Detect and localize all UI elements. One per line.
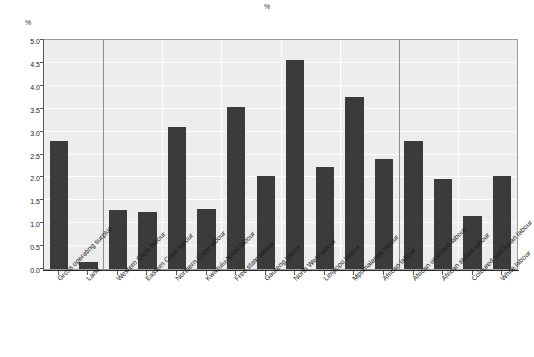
gridline-vertical [281, 40, 282, 269]
y-axis-tick-label: 4.0 [30, 83, 40, 90]
group-separator [399, 40, 400, 269]
x-axis-tick-mark [117, 271, 118, 275]
y-axis-tick-mark [40, 222, 44, 223]
y-axis-tick-label: 2.5 [30, 152, 40, 159]
y-axis-tick-mark [40, 176, 44, 177]
x-axis-tick-mark [472, 271, 473, 275]
y-axis-unit-label: % [25, 19, 31, 26]
y-axis-tick-mark [40, 199, 44, 200]
plot-area [43, 39, 518, 270]
y-axis-tick-mark [40, 62, 44, 63]
y-axis-tick-mark [40, 154, 44, 155]
x-axis-tick-mark [324, 271, 325, 275]
y-axis-line [43, 39, 44, 271]
x-axis-tick-mark [383, 271, 384, 275]
y-axis-tick-mark [40, 39, 44, 40]
x-axis-tick-mark [413, 271, 414, 275]
gridline-vertical [340, 40, 341, 269]
x-axis-tick-mark [58, 271, 59, 275]
x-axis-tick-mark [87, 271, 88, 275]
x-axis-tick-mark [442, 271, 443, 275]
y-axis-tick-label: 0.0 [30, 267, 40, 274]
x-axis-tick-mark [146, 271, 147, 275]
x-axis-tick-mark [235, 271, 236, 275]
y-axis-tick-labels: 0.00.51.01.52.02.53.03.54.04.55.0 [0, 39, 40, 270]
x-axis-tick-mark [265, 271, 266, 275]
y-axis-tick-mark [40, 245, 44, 246]
chart-container: % % 0.00.51.01.52.02.53.03.54.04.55.0 Gr… [0, 0, 534, 357]
y-axis-tick-label: 5.0 [30, 38, 40, 45]
x-axis-tick-mark [501, 271, 502, 275]
y-axis-tick-label: 3.0 [30, 129, 40, 136]
chart-title: % [0, 3, 534, 10]
y-axis-tick-mark [40, 85, 44, 86]
y-axis-tick-label: 4.5 [30, 60, 40, 67]
bar[interactable] [109, 210, 127, 269]
y-axis-tick-mark [40, 108, 44, 109]
x-axis-tick-mark [353, 271, 354, 275]
x-axis-tick-mark [176, 271, 177, 275]
y-axis-tick-label: 1.0 [30, 221, 40, 228]
bar[interactable] [50, 141, 68, 269]
x-axis-tick-mark [294, 271, 295, 275]
y-axis-tick-label: 0.5 [30, 244, 40, 251]
bar[interactable] [286, 60, 304, 269]
x-axis-tick-mark [206, 271, 207, 275]
y-axis-tick-mark [40, 268, 44, 269]
y-axis-tick-label: 1.5 [30, 198, 40, 205]
y-axis-tick-mark [40, 131, 44, 132]
y-axis-tick-label: 3.5 [30, 106, 40, 113]
y-axis-tick-label: 2.0 [30, 175, 40, 182]
